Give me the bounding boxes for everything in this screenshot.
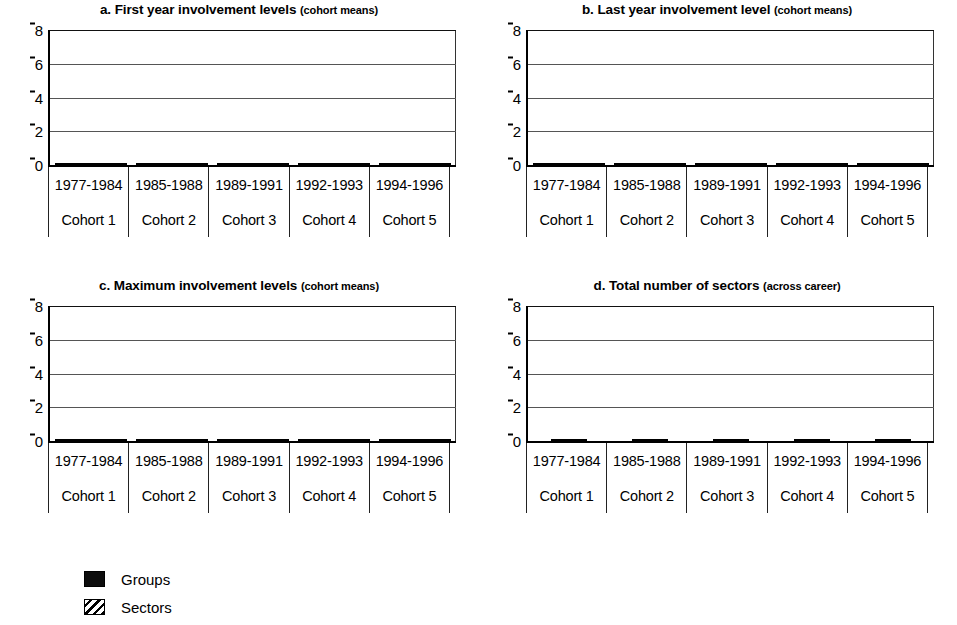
y-tick-label-6: 6 bbox=[513, 56, 528, 71]
y-tick-mark-8 bbox=[508, 23, 513, 25]
y-tick-mark-4 bbox=[30, 90, 35, 92]
x-tick-label-cohort: Cohort 4 bbox=[290, 478, 369, 513]
x-tick-label-cohort: Cohort 2 bbox=[607, 202, 686, 237]
bar-pair bbox=[794, 439, 830, 441]
bar-pair bbox=[533, 163, 605, 165]
x-tick-label-years: 1994-1996 bbox=[848, 443, 927, 478]
y-tick-mark-0 bbox=[30, 434, 35, 436]
y-tick-label-4: 4 bbox=[35, 90, 50, 105]
bar-sectors bbox=[650, 163, 686, 165]
bar-sectors bbox=[334, 163, 370, 165]
x-tick-label-cohort: Cohort 3 bbox=[209, 202, 288, 237]
x-tick-label-years: 1992-1993 bbox=[290, 443, 369, 478]
bar-group-cohort-2 bbox=[609, 30, 690, 165]
x-axis-column-2: 1985-1988Cohort 2 bbox=[129, 443, 209, 513]
y-tick-label-6: 6 bbox=[513, 332, 528, 347]
panel-c-title-sub: (cohort means) bbox=[301, 280, 379, 292]
bar-sectors bbox=[172, 439, 208, 441]
y-tick-mark-2 bbox=[30, 124, 35, 126]
x-tick-label-years: 1985-1988 bbox=[607, 443, 686, 478]
panel-d-x-axis-table: 1977-1984Cohort 11985-1988Cohort 21989-1… bbox=[526, 443, 928, 513]
bar-sectors bbox=[812, 163, 848, 165]
panel-a-bars bbox=[50, 30, 456, 165]
bar-sectors bbox=[172, 163, 208, 165]
diagonal-hatch-swatch bbox=[84, 599, 105, 615]
x-tick-label-years: 1992-1993 bbox=[768, 167, 847, 202]
x-axis-column-1: 1977-1984Cohort 1 bbox=[48, 167, 129, 237]
y-tick-mark-4 bbox=[508, 90, 513, 92]
x-tick-label-cohort: Cohort 1 bbox=[49, 202, 128, 237]
panel-b-title: b. Last year involvement level (cohort m… bbox=[478, 2, 956, 17]
bar-pair bbox=[55, 163, 127, 165]
x-axis-column-5: 1994-1996Cohort 5 bbox=[848, 167, 928, 237]
bar-pair bbox=[298, 163, 370, 165]
panel-d-title: d. Total number of sectors (across caree… bbox=[478, 278, 956, 293]
x-tick-label-cohort: Cohort 1 bbox=[49, 478, 128, 513]
y-tick-label-2: 2 bbox=[35, 124, 50, 139]
bar-group-cohort-5 bbox=[853, 306, 934, 441]
panel-c: c. Maximum involvement levels (cohort me… bbox=[0, 276, 478, 544]
x-tick-label-cohort: Cohort 5 bbox=[370, 202, 449, 237]
panel-d-title-sub: (across career) bbox=[763, 280, 840, 292]
bar-groups bbox=[776, 163, 812, 165]
panel-d-bars bbox=[528, 306, 934, 441]
panel-c-bars bbox=[50, 306, 456, 441]
x-tick-label-cohort: Cohort 4 bbox=[768, 202, 847, 237]
y-tick-mark-0 bbox=[508, 434, 513, 436]
x-axis-column-4: 1992-1993Cohort 4 bbox=[768, 443, 848, 513]
bar-pair bbox=[136, 439, 208, 441]
bar-pair bbox=[875, 439, 911, 441]
panel-b-x-axis-table: 1977-1984Cohort 11985-1988Cohort 21989-1… bbox=[526, 167, 928, 237]
legend-label-groups: Groups bbox=[121, 571, 170, 588]
bar-sectors bbox=[334, 439, 370, 441]
x-tick-label-years: 1994-1996 bbox=[848, 167, 927, 202]
bar-sectors bbox=[415, 163, 451, 165]
figure-legend: GroupsSectors bbox=[84, 565, 304, 621]
x-tick-label-cohort: Cohort 4 bbox=[290, 202, 369, 237]
bar-groups bbox=[379, 439, 415, 441]
bar-sectors bbox=[893, 163, 929, 165]
legend-item-groups: Groups bbox=[84, 565, 304, 593]
x-axis-column-5: 1994-1996Cohort 5 bbox=[848, 443, 928, 513]
bar-groups bbox=[217, 439, 253, 441]
y-tick-label-8: 8 bbox=[513, 23, 528, 38]
x-tick-label-years: 1989-1991 bbox=[687, 167, 766, 202]
x-axis-column-2: 1985-1988Cohort 2 bbox=[129, 167, 209, 237]
y-tick-mark-6 bbox=[508, 56, 513, 58]
x-axis-column-3: 1989-1991Cohort 3 bbox=[209, 443, 289, 513]
y-tick-label-6: 6 bbox=[35, 56, 50, 71]
bar-groups bbox=[614, 163, 650, 165]
y-tick-mark-0 bbox=[30, 158, 35, 160]
bar-groups bbox=[136, 439, 172, 441]
bar-group-cohort-2 bbox=[609, 306, 690, 441]
bar-pair bbox=[632, 439, 668, 441]
panel-b-axes: 02468 bbox=[526, 30, 934, 167]
x-tick-label-cohort: Cohort 2 bbox=[607, 478, 686, 513]
x-tick-label-years: 1977-1984 bbox=[527, 167, 606, 202]
panel-d: d. Total number of sectors (across caree… bbox=[478, 276, 956, 544]
x-tick-label-cohort: Cohort 5 bbox=[848, 478, 927, 513]
bar-sectors bbox=[569, 163, 605, 165]
x-axis-column-4: 1992-1993Cohort 4 bbox=[290, 167, 370, 237]
x-tick-label-cohort: Cohort 5 bbox=[848, 202, 927, 237]
x-tick-label-years: 1992-1993 bbox=[290, 167, 369, 202]
bar-group-cohort-2 bbox=[131, 30, 212, 165]
panel-d-plot: 02468 bbox=[500, 306, 940, 443]
bar-sectors bbox=[632, 439, 668, 441]
bar-group-cohort-5 bbox=[853, 30, 934, 165]
bar-sectors bbox=[713, 439, 749, 441]
x-tick-label-years: 1994-1996 bbox=[370, 443, 449, 478]
bar-pair bbox=[217, 439, 289, 441]
y-tick-mark-6 bbox=[30, 56, 35, 58]
bar-pair bbox=[298, 439, 370, 441]
bar-group-cohort-4 bbox=[294, 306, 375, 441]
bar-pair bbox=[379, 163, 451, 165]
bar-group-cohort-3 bbox=[212, 30, 293, 165]
bar-groups bbox=[136, 163, 172, 165]
panel-d-axes: 02468 bbox=[526, 306, 934, 443]
panel-a-x-axis-table: 1977-1984Cohort 11985-1988Cohort 21989-1… bbox=[48, 167, 450, 237]
panel-b-title-main: b. Last year involvement level bbox=[582, 2, 770, 17]
panel-b-plot: 02468 bbox=[500, 30, 940, 167]
y-tick-mark-8 bbox=[508, 299, 513, 301]
y-tick-mark-0 bbox=[508, 158, 513, 160]
